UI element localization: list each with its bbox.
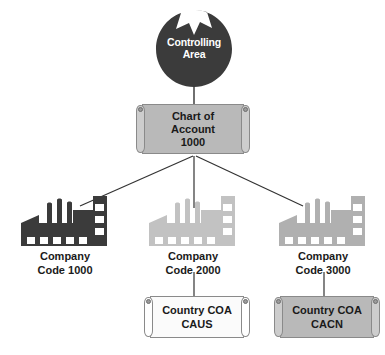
scroll-pin-top-right	[243, 107, 248, 112]
company-1000-icon-wrap	[10, 188, 120, 248]
node-controlling-area[interactable]: Controlling Area	[152, 8, 236, 88]
company-1000-label-line1: Company	[10, 250, 120, 264]
node-chart-of-account[interactable]: Chart of Account 1000	[134, 104, 252, 154]
company-2000-label-line2: Code 2000	[138, 264, 248, 278]
scroll-pin-top-right	[373, 299, 378, 304]
controlling-area-label-line1: Controlling	[152, 36, 236, 48]
factory-icon	[19, 190, 111, 248]
factory-icon	[277, 190, 369, 248]
scroll-pin-top-left	[138, 107, 143, 112]
chart-of-account-label: Chart of Account 1000	[144, 110, 242, 149]
company-1000-label-line2: Code 1000	[10, 264, 120, 278]
company-3000-icon-wrap	[268, 188, 378, 248]
node-company-2000[interactable]: Company Code 2000	[138, 188, 248, 277]
node-company-1000[interactable]: Company Code 1000	[10, 188, 120, 277]
country-coa-cacn-label-line1: Country COA	[282, 304, 372, 318]
org-structure-diagram: Controlling Area Chart of Account 1000	[0, 0, 385, 355]
scroll-pin-top-left	[146, 299, 151, 304]
chart-of-account-label-line1: Chart of	[144, 110, 242, 123]
node-company-3000[interactable]: Company Code 3000	[268, 188, 378, 277]
chart-of-account-label-line3: 1000	[144, 136, 242, 149]
factory-icon	[147, 190, 239, 248]
controlling-area-label-line2: Area	[152, 48, 236, 60]
scroll-pin-top-left	[276, 299, 281, 304]
company-3000-label-line1: Company	[268, 250, 378, 264]
country-coa-caus-label-line1: Country COA	[152, 304, 242, 318]
node-country-coa-cacn[interactable]: Country COA CACN	[272, 296, 382, 338]
company-2000-label-line1: Company	[138, 250, 248, 264]
company-2000-icon-wrap	[138, 188, 248, 248]
country-coa-cacn-label: Country COA CACN	[282, 304, 372, 331]
node-country-coa-caus[interactable]: Country COA CAUS	[142, 296, 252, 338]
scroll-curl-right	[241, 105, 250, 153]
scroll-pin-top-right	[243, 299, 248, 304]
controlling-area-label: Controlling Area	[152, 36, 236, 60]
country-coa-caus-label: Country COA CAUS	[152, 304, 242, 331]
company-3000-label: Company Code 3000	[268, 250, 378, 277]
country-coa-caus-label-line2: CAUS	[152, 317, 242, 331]
company-3000-label-line2: Code 3000	[268, 264, 378, 278]
company-2000-label: Company Code 2000	[138, 250, 248, 277]
country-coa-cacn-label-line2: CACN	[282, 317, 372, 331]
chart-of-account-label-line2: Account	[144, 123, 242, 136]
company-1000-label: Company Code 1000	[10, 250, 120, 277]
